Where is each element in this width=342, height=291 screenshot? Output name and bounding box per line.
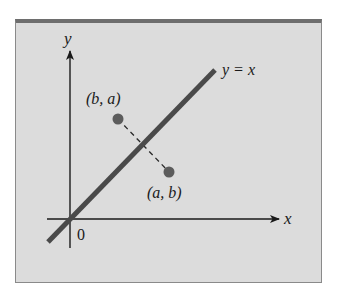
- x-axis-label: x: [283, 209, 292, 228]
- y-axis-label: y: [62, 29, 72, 48]
- point-a-b: [164, 167, 175, 178]
- point-a-b-label: (a, b): [147, 184, 182, 202]
- identity-line: [48, 70, 215, 242]
- line-label: y = x: [220, 61, 255, 79]
- origin-label: 0: [77, 226, 85, 243]
- diagram-canvas: y x 0 y = x (b, a) (a, b): [0, 0, 342, 291]
- point-b-a-label: (b, a): [86, 90, 121, 108]
- point-b-a: [113, 114, 124, 125]
